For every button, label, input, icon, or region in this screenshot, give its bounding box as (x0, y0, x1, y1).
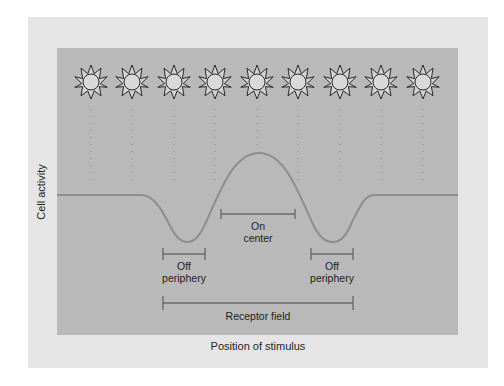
receptive-field-diagram (0, 0, 504, 386)
off-right-label-line2: periphery (302, 272, 362, 284)
sun-icon (407, 65, 439, 99)
on-center-label-line1: On (228, 220, 288, 232)
sun-icon (116, 65, 148, 99)
stimulus-drop-lines (91, 109, 423, 184)
x-axis-label: Position of stimulus (178, 340, 338, 352)
off-left-label-line2: periphery (154, 272, 214, 284)
sun-icon (241, 65, 273, 99)
off-periphery-right-label: Off periphery (302, 260, 362, 284)
sun-icon (365, 65, 397, 99)
on-center-bracket (221, 209, 295, 219)
off-periphery-left-label: Off periphery (154, 260, 214, 284)
sun-icon (324, 65, 356, 99)
receptor-field-bracket (163, 296, 353, 310)
sun-icon (282, 65, 314, 99)
off-periphery-right-bracket (311, 248, 353, 260)
sun-icon (158, 65, 190, 99)
stimulus-row (75, 65, 439, 99)
on-center-label-line2: center (228, 232, 288, 244)
sun-icon (199, 65, 231, 99)
off-periphery-left-bracket (163, 248, 205, 260)
y-axis-label: Cell activity (35, 164, 47, 220)
off-left-label-line1: Off (154, 260, 214, 272)
on-center-label: On center (228, 220, 288, 244)
sun-icon (75, 65, 107, 99)
off-right-label-line1: Off (302, 260, 362, 272)
receptor-field-label: Receptor field (198, 310, 318, 322)
